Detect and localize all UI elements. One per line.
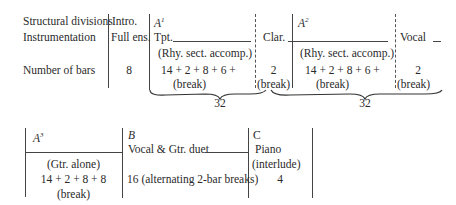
a3-bars: 14 + 2 + 8 + 8 [25,173,122,186]
b-instrument-line [205,152,248,153]
c-instrumentation-2: (interlude) [252,158,301,171]
c-instrumentation: Piano [255,143,281,156]
c-bars: 4 [248,173,312,186]
a3-heading-letter: A [33,132,40,144]
a3-heading-line [25,152,122,153]
a3-heading: A3 [33,129,44,145]
b-bars: 16 (alternating 2-bar breaks) [127,173,258,186]
c-heading: C [253,129,261,142]
brace-total-a1: 32 [205,97,235,110]
divider-c [248,128,249,198]
a3-instrumentation: (Gtr. alone) [25,158,122,171]
brace-total-a2: 32 [350,97,380,110]
divider-b [122,128,123,198]
b-instrumentation: Vocal & Gtr. duet [128,143,209,156]
b-heading: B [128,129,135,142]
divider-c-right [312,128,313,198]
a3-break: (break) [25,188,122,201]
a3-heading-sup: 3 [40,131,44,139]
